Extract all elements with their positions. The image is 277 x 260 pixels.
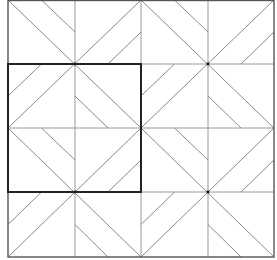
- offset-line: [208, 225, 241, 258]
- center-point: [207, 191, 210, 194]
- offset-line: [75, 225, 108, 258]
- offset-line: [42, 0, 76, 32]
- pattern-block-2: [141, 0, 274, 128]
- offset-line: [42, 128, 76, 160]
- offset-line: [175, 128, 209, 160]
- offset-line: [141, 192, 175, 225]
- offset-line: [75, 96, 108, 128]
- offset-line: [108, 32, 141, 64]
- offset-line: [8, 64, 42, 96]
- offset-line: [108, 160, 141, 192]
- offset-line: [175, 0, 209, 32]
- offset-line: [241, 32, 274, 64]
- offset-line: [241, 160, 274, 192]
- pattern-block-4: [141, 128, 274, 257]
- offset-line: [8, 192, 42, 225]
- center-point: [207, 63, 210, 66]
- offset-line: [208, 96, 241, 128]
- quilt-pattern-diagram: [0, 0, 277, 260]
- offset-line: [141, 64, 175, 96]
